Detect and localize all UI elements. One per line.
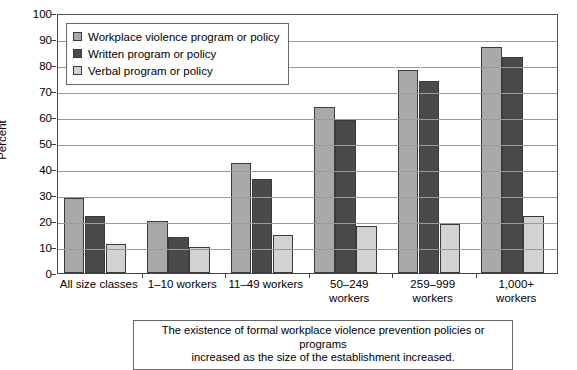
caption-line-2: increased as the size of the establishme… bbox=[140, 351, 506, 365]
y-tick-label: 60 bbox=[6, 112, 52, 124]
y-tick-mark bbox=[51, 40, 56, 41]
y-tick-label: 100 bbox=[6, 8, 52, 20]
y-tick-label: 20 bbox=[6, 216, 52, 228]
y-tick-label: 70 bbox=[6, 86, 52, 98]
gridline bbox=[58, 197, 557, 198]
gridline bbox=[58, 223, 557, 224]
y-tick-mark bbox=[51, 222, 56, 223]
x-tick-label: 11–49 workers bbox=[224, 278, 308, 292]
bar bbox=[523, 216, 544, 273]
x-axis-labels: All size classes1–10 workers11–49 worker… bbox=[57, 278, 558, 318]
y-tick-mark bbox=[51, 170, 56, 171]
x-tick-label-line: 1,000+ bbox=[475, 278, 559, 292]
legend-label: Workplace violence program or policy bbox=[88, 31, 280, 43]
legend-item: Verbal program or policy bbox=[73, 62, 280, 79]
bar bbox=[147, 221, 168, 273]
x-tick-label: All size classes bbox=[57, 278, 141, 292]
y-tick-mark bbox=[51, 196, 56, 197]
gridline bbox=[58, 119, 557, 120]
bar-group bbox=[309, 15, 393, 273]
y-tick-mark bbox=[51, 144, 56, 145]
y-tick-mark bbox=[51, 248, 56, 249]
legend-item: Workplace violence program or policy bbox=[73, 28, 280, 45]
bar bbox=[502, 57, 523, 273]
x-tick-label-line: 259–999 bbox=[391, 278, 475, 292]
bar bbox=[64, 198, 85, 273]
gridline bbox=[58, 145, 557, 146]
y-tick-label: 0 bbox=[6, 268, 52, 280]
x-tick-label-line: All size classes bbox=[57, 278, 141, 292]
bar-group bbox=[392, 15, 476, 273]
bar bbox=[273, 235, 294, 273]
legend-swatch-icon bbox=[73, 49, 82, 58]
bar bbox=[231, 163, 252, 274]
y-tick-mark bbox=[51, 92, 56, 93]
legend-swatch-icon bbox=[73, 66, 82, 75]
x-tick-label-line: 50–249 bbox=[308, 278, 392, 292]
y-tick-label: 90 bbox=[6, 34, 52, 46]
bar-group bbox=[476, 15, 560, 273]
x-tick-label-line: workers bbox=[475, 292, 559, 306]
y-axis: Percent 0102030405060708090100 bbox=[0, 0, 52, 362]
caption-line-1: The existence of formal workplace violen… bbox=[140, 324, 506, 351]
y-tick-label: 30 bbox=[6, 190, 52, 202]
y-tick-mark bbox=[51, 66, 56, 67]
x-tick-label: 50–249workers bbox=[308, 278, 392, 305]
bar bbox=[252, 179, 273, 273]
x-tick-label: 1,000+workers bbox=[475, 278, 559, 305]
y-tick-mark bbox=[51, 118, 56, 119]
legend-label: Written program or policy bbox=[88, 48, 216, 60]
bar bbox=[481, 47, 502, 273]
legend-item: Written program or policy bbox=[73, 45, 280, 62]
y-tick-label: 10 bbox=[6, 242, 52, 254]
bar bbox=[85, 216, 106, 273]
x-tick-label-line: workers bbox=[308, 292, 392, 306]
gridline bbox=[58, 249, 557, 250]
x-tick-label-line: 1–10 workers bbox=[141, 278, 225, 292]
y-tick-label: 80 bbox=[6, 60, 52, 72]
bar bbox=[168, 237, 189, 273]
gridline bbox=[58, 93, 557, 94]
legend: Workplace violence program or policyWrit… bbox=[66, 23, 289, 85]
legend-swatch-icon bbox=[73, 32, 82, 41]
bar bbox=[189, 247, 210, 273]
x-tick-label-line: workers bbox=[391, 292, 475, 306]
chart-caption: The existence of formal workplace violen… bbox=[133, 320, 513, 370]
bar bbox=[419, 81, 440, 273]
y-tick-label: 40 bbox=[6, 164, 52, 176]
y-tick-label: 50 bbox=[6, 138, 52, 150]
y-tick-mark bbox=[51, 274, 56, 275]
x-tick-label: 259–999workers bbox=[391, 278, 475, 305]
y-tick-mark bbox=[51, 14, 56, 15]
x-tick-label-line: 11–49 workers bbox=[224, 278, 308, 292]
gridline bbox=[58, 171, 557, 172]
x-tick-label: 1–10 workers bbox=[141, 278, 225, 292]
legend-label: Verbal program or policy bbox=[88, 65, 213, 77]
